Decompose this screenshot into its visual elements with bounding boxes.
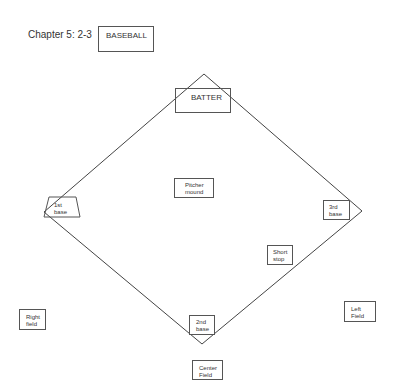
infield-diamond [44, 74, 362, 344]
first-base-label-1: 1st [54, 202, 76, 209]
center-field-label-1: Center [199, 365, 222, 372]
third-base-label-1: 3rd [329, 204, 349, 211]
chapter-label: Chapter 5: 2-3 [28, 29, 92, 40]
left-field-box: Left Field [344, 301, 376, 322]
pitcher-label-1: Pitcher [185, 182, 213, 189]
short-stop-label-1: Short [273, 249, 292, 256]
center-field-box: Center Field [192, 360, 223, 380]
second-base-box: 2nd base [189, 315, 215, 335]
right-field-box: Right field [19, 309, 46, 330]
pitcher-mound-box: Pitcher mound [174, 178, 214, 198]
baseball-title: BASEBALL [106, 32, 153, 39]
first-base-box: 1st base [52, 199, 76, 217]
second-base-label-1: 2nd [196, 319, 214, 326]
batter-label: BATTER [191, 94, 230, 101]
second-base-label-2: base [196, 326, 214, 333]
left-field-label-2: Field [351, 313, 375, 320]
first-base-label-2: base [54, 209, 76, 216]
baseball-title-box: BASEBALL [98, 26, 154, 52]
pitcher-label-2: mound [185, 189, 213, 196]
right-field-label-2: field [26, 321, 45, 328]
third-base-box: 3rd base [323, 200, 350, 220]
right-field-label-1: Right [26, 314, 45, 321]
center-field-label-2: Field [199, 372, 222, 379]
short-stop-label-2: stop [273, 256, 292, 263]
third-base-label-2: base [329, 211, 349, 218]
batter-box: BATTER [175, 88, 231, 113]
left-field-label-1: Left [351, 306, 375, 313]
short-stop-box: Short stop [267, 245, 293, 265]
